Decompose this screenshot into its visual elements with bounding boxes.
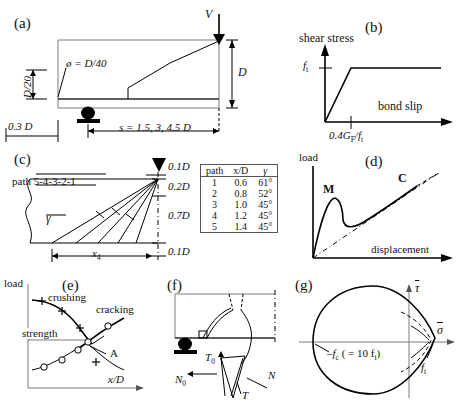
cell-gamma: 52° [253, 188, 278, 199]
panel-b-x-tick-label: 0.4GF/ft [329, 130, 363, 144]
table-row: 4 1.2 45° [201, 210, 278, 221]
panel-a-depth-label: D [238, 66, 247, 78]
panel-g-ft-label: ft [421, 362, 426, 376]
cell-xd: 1.4 [228, 221, 253, 233]
cell-path: 4 [201, 210, 229, 221]
panel-a-span-label: s = 1.5, 3, 4.5 D [119, 122, 191, 133]
cell-xd: 0.8 [228, 188, 253, 199]
cell-gamma: 61° [253, 177, 278, 189]
cell-xd: 1.2 [228, 210, 253, 221]
panel-b-y-axis-label: shear stress [299, 32, 354, 44]
table-header-path: path [201, 165, 229, 177]
table-header-gamma: γ [253, 165, 278, 177]
cell-path: 3 [201, 199, 229, 210]
panel-e-crushing-label: crushing [48, 292, 86, 303]
panel-f-force-n: N [268, 370, 275, 381]
panel-a-left-offset-label: 0.3 D [8, 121, 32, 132]
panel-b-x-axis-label: bond slip [378, 100, 422, 112]
panel-c-table: path x/D γ 1 0.6 61° 2 0.8 52° 3 1.0 45° [200, 164, 278, 233]
table-row: 3 1.0 45° [201, 199, 278, 210]
panel-e-y-axis-label: load [4, 278, 23, 289]
panel-f-force-t0: T0 [205, 352, 215, 366]
panel-c-x4-label: x4 [92, 248, 101, 262]
cell-path: 1 [201, 177, 229, 189]
panel-d: (d) load displacement M C [285, 148, 459, 270]
panel-d-y-axis-label: load [299, 152, 318, 163]
cell-path: 2 [201, 188, 229, 199]
panel-g-drawing [285, 270, 459, 408]
panel-e-strength-label: strength [22, 328, 57, 339]
panel-e-point-a-label: A [110, 348, 118, 359]
panel-c-dim-0: 0.1D [168, 161, 190, 172]
panel-e-cracking-label: cracking [96, 304, 134, 315]
panel-g-y-axis-label: τ [415, 282, 419, 294]
panel-e: (e) load x/D crush [0, 270, 160, 408]
table-row: 1 0.6 61° [201, 177, 278, 189]
table-row: 2 0.8 52° [201, 188, 278, 199]
panel-f: (f) T0 N0 T N [155, 270, 285, 408]
panel-f-force-n0: N0 [175, 374, 186, 388]
panel-c-dim-1: 0.2D [168, 181, 190, 192]
cell-xd: 1.0 [228, 199, 253, 210]
panel-b: (b) shear stress bond slip ft 0.4GF/ft [255, 0, 459, 148]
table-header-row: path x/D γ [201, 165, 278, 177]
panel-g: (g) τ σ –fc ( = 10 ft) ft [285, 270, 459, 408]
cell-path: 5 [201, 221, 229, 233]
table-header-xd: x/D [228, 165, 253, 177]
panel-a: (a) [0, 0, 250, 148]
panel-e-x-axis-label: x/D [108, 374, 124, 385]
panel-b-drawing [255, 0, 459, 148]
panel-c-dim-3: 0.1D [168, 246, 190, 257]
panel-a-load-label: V [205, 8, 212, 20]
panel-d-marker-c: C [398, 172, 407, 184]
panel-a-bar-label: ø = D/40 [66, 58, 106, 69]
cell-gamma: 45° [253, 221, 278, 233]
panel-c: (c) path 5-4-3- [0, 148, 300, 270]
panel-a-cover-label: D/20 [22, 76, 33, 98]
cell-gamma: 45° [253, 210, 278, 221]
panel-d-x-axis-label: displacement [371, 244, 429, 255]
cell-gamma: 45° [253, 199, 278, 210]
panel-c-gamma-label: γ [46, 212, 51, 224]
table-row: 5 1.4 45° [201, 221, 278, 233]
panel-c-path-label: path 5-4-3-2-1 [12, 176, 76, 187]
cell-xd: 0.6 [228, 177, 253, 189]
panel-f-force-t: T [242, 390, 248, 401]
panel-g-fc-label: –fc ( = 10 ft) [327, 348, 380, 362]
panel-c-dim-2: 0.7D [168, 210, 190, 221]
panel-b-y-tick-label: ft [303, 60, 308, 74]
panel-g-x-axis-label: σ [437, 324, 443, 336]
panel-d-marker-m: M [323, 183, 334, 195]
